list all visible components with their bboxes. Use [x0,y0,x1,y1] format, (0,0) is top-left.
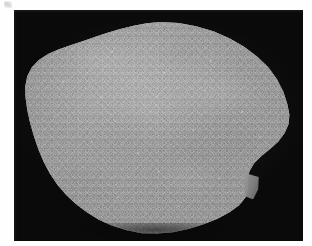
rock-specimen [14,10,303,241]
specimen-alt-text: Rounded irregular pentagonal rock specim… [0,0,1,1]
specimen-photograph [14,10,303,241]
specimen-protrusion-nub [244,173,259,200]
scan-artifact-speck [4,1,12,8]
specimen-edge-shading [14,10,303,241]
page-canvas: Rounded irregular pentagonal rock specim… [0,0,312,246]
